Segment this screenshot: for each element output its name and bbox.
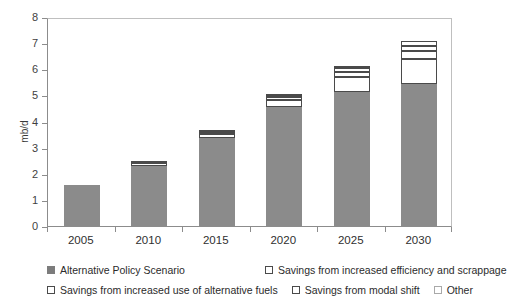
y-axis-tick-label: 2 [32, 167, 38, 182]
bar-segment[interactable] [131, 163, 167, 166]
bar-group[interactable] [199, 17, 235, 226]
y-axis-tick-label: 0 [32, 219, 38, 234]
bar-segment[interactable] [401, 51, 437, 59]
legend-item-label: Savings from increased efficiency and sc… [278, 264, 507, 276]
bar-group[interactable] [131, 17, 167, 226]
legend-item-label: Savings from increased use of alternativ… [60, 284, 278, 296]
y-axis-tick-label: 6 [32, 62, 38, 77]
bar-group[interactable] [401, 17, 437, 226]
legend-item-label: Savings from modal shift [305, 284, 420, 296]
x-axis-tick-label: 2005 [46, 234, 116, 246]
x-axis-tick-mark [385, 227, 386, 232]
bar-group[interactable] [64, 17, 100, 226]
x-axis-tick-mark [47, 227, 48, 232]
bar-group[interactable] [266, 17, 302, 226]
bar-segment[interactable] [199, 130, 235, 132]
x-axis-tick-label: 2015 [181, 234, 251, 246]
y-axis-tick-label: 3 [32, 141, 38, 156]
x-axis-tick-mark [451, 227, 452, 232]
x-axis-tick-label: 2025 [316, 234, 386, 246]
bar-segment[interactable] [266, 100, 302, 107]
legend-item[interactable]: Savings from increased use of alternativ… [47, 284, 278, 296]
legend-row-primary: Alternative Policy ScenarioSavings from … [0, 260, 511, 280]
legend-item[interactable]: Savings from increased efficiency and sc… [265, 264, 507, 276]
legend-row-secondary: Savings from increased use of alternativ… [0, 280, 511, 300]
bar-segment[interactable] [266, 94, 302, 96]
x-axis-tick-label: 2030 [383, 234, 453, 246]
bar-segment[interactable] [64, 185, 100, 226]
y-axis-tick-label: 4 [32, 115, 38, 130]
bar-segment[interactable] [266, 107, 302, 226]
bar-segment[interactable] [401, 84, 437, 226]
x-axis: 200520102015202020252030 [47, 227, 452, 253]
legend-swatch-icon [47, 286, 55, 294]
legend-item[interactable]: Savings from modal shift [292, 284, 420, 296]
bar-segment[interactable] [401, 41, 437, 46]
y-axis-tick-label: 7 [32, 36, 38, 51]
y-axis-tick-label: 5 [32, 88, 38, 103]
x-axis-tick-mark [115, 227, 116, 232]
legend-item[interactable]: Other [434, 284, 473, 296]
bar-segment[interactable] [334, 77, 370, 92]
legend-item-label: Alternative Policy Scenario [60, 264, 185, 276]
bar-segment[interactable] [334, 66, 370, 68]
chart-title [0, 0, 471, 2]
bar-segment[interactable] [334, 92, 370, 226]
bar-group[interactable] [334, 17, 370, 226]
bar-segment[interactable] [334, 72, 370, 77]
y-axis: mb/d 012345678 [0, 18, 47, 227]
x-axis-tick-label: 2010 [113, 234, 183, 246]
bar-segment[interactable] [131, 166, 167, 226]
bar-segment[interactable] [199, 134, 235, 138]
x-axis-tick-label: 2020 [248, 234, 318, 246]
chart-legend: Alternative Policy ScenarioSavings from … [0, 258, 471, 306]
bar-segment[interactable] [199, 138, 235, 226]
x-axis-tick-mark [182, 227, 183, 232]
y-axis-label: mb/d [19, 102, 30, 162]
y-axis-tick-label: 1 [32, 193, 38, 208]
legend-item[interactable]: Alternative Policy Scenario [47, 264, 185, 276]
legend-item-label: Other [447, 284, 473, 296]
legend-swatch-icon [265, 266, 273, 274]
bar-segment[interactable] [131, 161, 167, 163]
y-axis-tick-label: 8 [32, 10, 38, 25]
bar-segment[interactable] [401, 59, 437, 84]
plot-area [47, 18, 452, 227]
bar-segment[interactable] [401, 46, 437, 51]
legend-swatch-icon [434, 286, 442, 294]
x-axis-tick-mark [250, 227, 251, 232]
legend-swatch-icon [47, 266, 55, 274]
x-axis-tick-mark [317, 227, 318, 232]
bar-segment[interactable] [266, 97, 302, 100]
legend-swatch-icon [292, 286, 300, 294]
bar-segment[interactable] [334, 68, 370, 71]
